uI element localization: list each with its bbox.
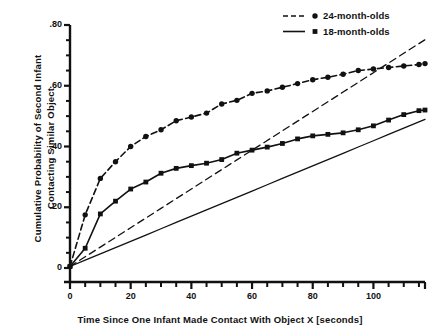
data-point-marker [143, 134, 148, 139]
data-point-marker [386, 118, 391, 123]
data-point-marker [204, 161, 209, 166]
data-point-marker [401, 112, 406, 117]
series-line-18-month-olds [70, 110, 425, 266]
data-point-marker [356, 68, 361, 73]
data-point-marker [159, 171, 164, 176]
data-point-marker [219, 157, 224, 162]
series-line-18-month-olds-baseline [70, 119, 425, 266]
data-point-marker [189, 163, 194, 168]
data-point-marker [234, 151, 239, 156]
data-point-marker [98, 176, 103, 181]
data-point-marker [386, 65, 391, 70]
data-point-marker [295, 81, 300, 86]
chart-figure: Cumulative Probability of Second Infant … [0, 0, 440, 333]
x-axis-title: Time Since One Infant Made Contact With … [0, 314, 440, 325]
legend-entry-label: 24-month-olds [323, 10, 390, 21]
x-tick-label: 60 [232, 291, 272, 301]
x-tick-label: 100 [353, 291, 393, 301]
data-point-marker [204, 110, 209, 115]
data-point-marker [83, 246, 88, 251]
y-tick-label: .60 [30, 80, 62, 90]
data-point-marker [128, 144, 133, 149]
data-point-marker [143, 180, 148, 185]
data-point-marker [219, 101, 224, 106]
axes [64, 25, 425, 289]
x-tick-label: 0 [50, 291, 90, 301]
series-line-24-month-olds [70, 64, 425, 267]
data-point-marker [249, 91, 254, 96]
data-point-marker [98, 212, 103, 217]
data-point-marker [295, 137, 300, 142]
y-tick-label: .80 [30, 19, 62, 29]
legend-marker-sample [312, 13, 317, 18]
data-point-marker [189, 114, 194, 119]
data-point-marker [113, 199, 118, 204]
y-tick-label: 0 [30, 262, 62, 272]
x-tick-label: 20 [111, 291, 151, 301]
data-point-marker [280, 141, 285, 146]
data-point-marker [128, 187, 133, 192]
legend-entry-label: 18-month-olds [323, 26, 390, 37]
data-point-marker [422, 61, 427, 66]
legend-symbols [283, 13, 318, 34]
data-point-marker [158, 127, 163, 132]
data-point-marker [265, 145, 270, 150]
data-point-marker [326, 132, 331, 137]
data-point-marker [423, 108, 428, 113]
x-tick-label: 40 [171, 291, 211, 301]
data-point-marker [265, 88, 270, 93]
data-point-marker [325, 75, 330, 80]
data-point-marker [310, 77, 315, 82]
data-point-marker [310, 133, 315, 138]
data-point-marker [113, 159, 118, 164]
y-tick-label: .20 [30, 201, 62, 211]
data-point-marker [416, 62, 421, 67]
data-point-marker [340, 72, 345, 77]
data-point-marker [356, 127, 361, 132]
data-point-marker [234, 98, 239, 103]
data-point-marker [280, 85, 285, 90]
data-point-marker [173, 118, 178, 123]
data-point-marker [401, 63, 406, 68]
legend-marker-sample [313, 29, 318, 34]
data-point-marker [82, 212, 87, 217]
data-series [67, 40, 427, 269]
data-point-marker [371, 123, 376, 128]
data-point-marker [174, 166, 179, 171]
data-point-marker [417, 108, 422, 113]
y-tick-label: .40 [30, 141, 62, 151]
x-tick-label: 80 [293, 291, 333, 301]
chart-plot-area [0, 0, 440, 333]
data-point-marker [341, 130, 346, 135]
